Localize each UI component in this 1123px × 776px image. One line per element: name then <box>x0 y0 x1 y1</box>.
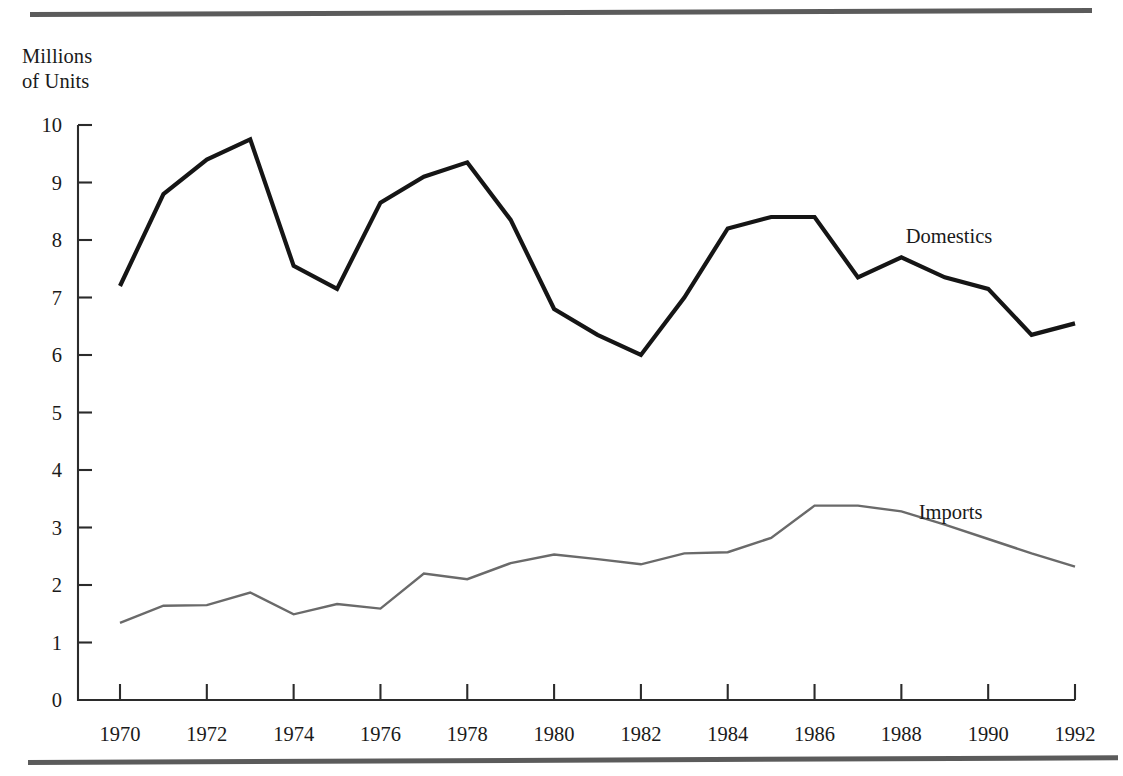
series-inline-labels: DomesticsImports <box>906 225 993 524</box>
y-tick-label: 3 <box>52 517 62 539</box>
x-tick-label: 1980 <box>534 723 575 745</box>
x-tick-label: 1984 <box>707 723 748 745</box>
series-label-domestics: Domestics <box>906 225 993 247</box>
y-tick-label: 5 <box>52 402 62 424</box>
y-axis-tick-labels: 012345678910 <box>42 114 63 711</box>
y-tick-label: 7 <box>52 287 62 309</box>
x-tick-label: 1982 <box>620 723 661 745</box>
x-tick-label: 1992 <box>1055 723 1096 745</box>
figure-container: Millions of Units 012345678910 197019721… <box>0 0 1123 776</box>
x-tick-label: 1988 <box>881 723 922 745</box>
x-tick-label: 1970 <box>100 723 141 745</box>
y-tick-label: 10 <box>42 114 63 136</box>
y-tick-label: 8 <box>52 229 62 251</box>
y-tick-label: 1 <box>52 632 62 654</box>
series-label-imports: Imports <box>919 501 983 524</box>
x-tick-label: 1976 <box>360 723 401 745</box>
data-series-group <box>120 139 1075 623</box>
series-line-domestics <box>120 139 1075 355</box>
x-tick-label: 1990 <box>968 723 1009 745</box>
x-axis-ticks <box>120 684 1075 700</box>
series-line-imports <box>120 506 1075 623</box>
line-chart-plot: 012345678910 197019721974197619781980198… <box>0 0 1123 776</box>
y-tick-label: 4 <box>52 459 62 481</box>
x-tick-label: 1978 <box>447 723 488 745</box>
y-tick-label: 2 <box>52 574 62 596</box>
y-tick-label: 9 <box>52 172 62 194</box>
y-tick-label: 0 <box>52 689 62 711</box>
x-axis-tick-labels: 1970197219741976197819801982198419861988… <box>100 723 1096 745</box>
axes-group <box>78 125 1075 700</box>
x-tick-label: 1986 <box>794 723 835 745</box>
axis-lines <box>78 125 1075 700</box>
x-tick-label: 1972 <box>186 723 227 745</box>
y-tick-label: 6 <box>52 344 62 366</box>
y-axis-ticks <box>78 125 92 643</box>
x-tick-label: 1974 <box>273 723 314 745</box>
